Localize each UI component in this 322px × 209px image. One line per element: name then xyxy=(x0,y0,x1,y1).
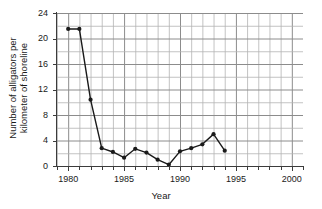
x-tick-label-1985: 1985 xyxy=(102,174,146,184)
y-axis-title: Number of alligators per kilometer of sh… xyxy=(7,13,29,163)
x-tick-label-2000: 2000 xyxy=(270,174,314,184)
x-tick-label-1995: 1995 xyxy=(214,174,258,184)
alligator-population-chart: 04812162024 19801985199019952000 Number … xyxy=(0,0,322,209)
x-tick-label-1980: 1980 xyxy=(46,174,90,184)
x-axis-title: Year xyxy=(0,190,322,201)
x-tick-label-1990: 1990 xyxy=(158,174,202,184)
